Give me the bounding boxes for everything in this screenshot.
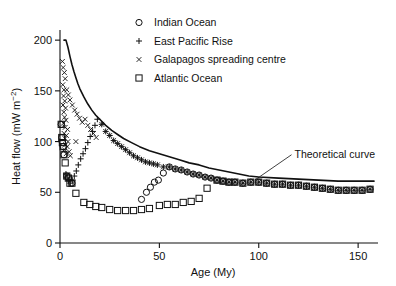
data-point: [138, 196, 144, 202]
annotation-leader-line: [255, 155, 292, 180]
legend-marker-circle-icon: [136, 19, 142, 25]
data-point: [85, 123, 90, 128]
data-point: [75, 162, 81, 168]
y-axis-tick-label: 50: [40, 186, 52, 198]
data-point: [156, 202, 162, 208]
data-point: [99, 204, 105, 210]
x-axis-tick-label: 100: [250, 250, 268, 262]
data-point: [65, 127, 70, 132]
legend-item-east-pacific-rise: East Pacific Rise: [136, 35, 233, 47]
data-point: [115, 207, 121, 213]
legend-item-indian-ocean: Indian Ocean: [136, 16, 217, 28]
data-point: [138, 206, 144, 212]
data-point: [188, 198, 194, 204]
x-axis-tick-label: 150: [349, 250, 367, 262]
chart-canvas: 050100150200050100150 Theoretical curve …: [0, 0, 396, 286]
data-point: [164, 201, 170, 207]
axis-labels-layer: Age (My)Heat flow (mW m−2): [9, 88, 235, 278]
y-axis-tick-label: 0: [46, 237, 52, 249]
y-axis-tick-label: 200: [34, 34, 52, 46]
data-point: [68, 98, 73, 103]
legend-label: East Pacific Rise: [154, 35, 233, 47]
legend-item-galapagos-spreading-centre: Galapagos spreading centre: [137, 53, 286, 65]
data-point: [63, 76, 68, 81]
data-point: [93, 203, 99, 209]
y-axis-tick-label: 100: [34, 136, 52, 148]
data-point: [87, 201, 93, 207]
series-atlantic-ocean: [58, 121, 373, 213]
data-point: [61, 65, 66, 70]
legend-label: Indian Ocean: [154, 16, 217, 28]
x-axis-tick-label: 50: [153, 250, 165, 262]
data-point: [61, 152, 67, 158]
x-axis-title: Age (My): [191, 266, 236, 278]
chart-legend: Indian OceanEast Pacific RiseGalapagos s…: [136, 16, 286, 84]
data-point: [122, 207, 128, 213]
data-point: [85, 140, 91, 146]
data-point: [172, 201, 178, 207]
data-point: [146, 205, 152, 211]
data-point: [160, 170, 166, 176]
data-point: [83, 117, 88, 122]
data-point: [196, 195, 202, 201]
data-point: [64, 87, 69, 92]
data-point: [180, 199, 186, 205]
legend-marker-cross-icon: [137, 57, 142, 62]
data-point: [204, 185, 210, 191]
heat-flow-vs-age-chart: 050100150200050100150 Theoretical curve …: [0, 0, 396, 286]
x-axis-tick-label: 0: [57, 250, 63, 262]
data-point: [61, 94, 66, 99]
data-point: [74, 139, 79, 144]
legend-marker-square-icon: [136, 75, 142, 81]
data-point: [94, 135, 99, 140]
data-point: [81, 199, 87, 205]
y-axis-tick-label: 150: [34, 85, 52, 97]
data-point: [60, 59, 65, 64]
annotation-layer: Theoretical curve: [255, 148, 375, 180]
legend-item-atlantic-ocean: Atlantic Ocean: [136, 72, 223, 84]
data-point: [60, 82, 65, 87]
legend-label: Atlantic Ocean: [154, 72, 222, 84]
legend-label: Galapagos spreading centre: [154, 53, 286, 65]
data-point: [130, 207, 136, 213]
data-point: [58, 121, 64, 127]
data-point: [62, 70, 67, 75]
data-point: [73, 190, 79, 196]
data-point: [62, 160, 68, 166]
data-point: [107, 206, 113, 212]
data-point: [66, 93, 71, 98]
data-point: [70, 103, 75, 108]
legend-marker-plus-icon: [136, 38, 142, 44]
theoretical-curve-annotation: Theoretical curve: [295, 148, 376, 160]
y-axis-title: Heat flow (mW m−2): [9, 88, 22, 185]
